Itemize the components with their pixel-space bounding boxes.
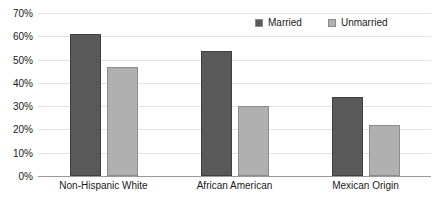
plot-area: 70%60%50%40%30%20%10%0% [38, 13, 431, 176]
bar-married [70, 34, 101, 176]
bar-married [332, 97, 363, 176]
x-axis-labels: Non-Hispanic WhiteAfrican AmericanMexica… [38, 180, 431, 191]
legend-item-unmarried: Unmarried [328, 18, 388, 28]
bar-group [38, 13, 169, 176]
axis-baseline: 0% [38, 176, 431, 177]
y-axis-tick-label: 20% [13, 124, 33, 135]
bar-unmarried [238, 106, 269, 176]
legend-item-married: Married [255, 18, 302, 28]
y-axis-tick-label: 40% [13, 77, 33, 88]
bar-chart: Married Unmarried 70%60%50%40%30%20%10%0… [0, 0, 439, 210]
y-axis-tick-label: 0% [19, 171, 33, 182]
y-axis-tick-label: 70% [13, 8, 33, 19]
bar-married [201, 51, 232, 176]
y-axis-tick-label: 50% [13, 54, 33, 65]
legend-label-unmarried: Unmarried [341, 18, 388, 28]
bar-unmarried [107, 67, 138, 176]
bar-unmarried [369, 125, 400, 176]
x-axis-category-label: Mexican Origin [300, 180, 431, 191]
x-axis-category-label: Non-Hispanic White [38, 180, 169, 191]
y-axis-tick-label: 10% [13, 147, 33, 158]
x-axis-category-label: African American [169, 180, 300, 191]
y-axis-tick-label: 30% [13, 101, 33, 112]
legend-swatch-married [255, 19, 263, 27]
y-axis-tick-label: 60% [13, 31, 33, 42]
bar-group [300, 13, 431, 176]
bar-group [169, 13, 300, 176]
bar-groups [38, 13, 431, 176]
chart-legend: Married Unmarried [255, 18, 388, 28]
legend-label-married: Married [268, 18, 302, 28]
legend-swatch-unmarried [328, 19, 336, 27]
